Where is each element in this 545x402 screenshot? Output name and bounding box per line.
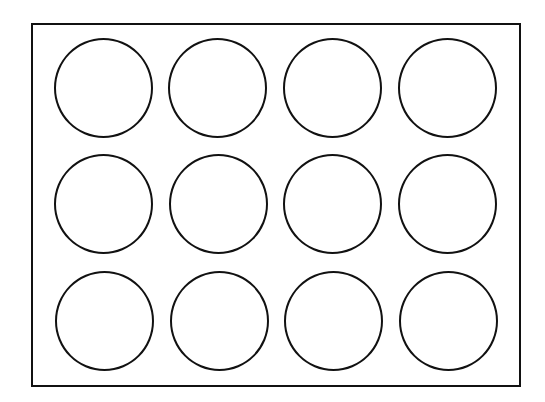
circle-r2-c3 xyxy=(283,154,382,254)
circle-r2-c4 xyxy=(398,154,497,254)
circle-r3-c3 xyxy=(284,271,383,371)
circle-r3-c2 xyxy=(170,271,269,371)
circle-r2-c2 xyxy=(169,154,268,254)
circle-r1-c2 xyxy=(168,38,267,138)
circle-r1-c3 xyxy=(283,38,382,138)
circle-r3-c4 xyxy=(399,271,498,371)
circle-r2-c1 xyxy=(54,154,153,254)
circle-r1-c4 xyxy=(398,38,497,138)
circle-r3-c1 xyxy=(55,271,154,371)
circle-r1-c1 xyxy=(54,38,153,138)
